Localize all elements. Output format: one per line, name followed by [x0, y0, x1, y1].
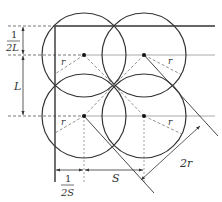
label-half-S-den: 2S: [60, 187, 74, 198]
label-r-bottom-left: r: [61, 117, 66, 127]
label-2r: 2r: [179, 157, 193, 170]
label-L: L: [13, 80, 21, 93]
circle-spacing-diagram: 1 2L L 1 2S S 2r r r r r: [0, 0, 222, 202]
label-r-top-left: r: [61, 57, 66, 67]
center-lines: [84, 55, 215, 116]
label-r-top-right: r: [168, 56, 173, 66]
label-half-L-num: 1: [11, 29, 17, 40]
label-r-bottom-right: r: [168, 117, 173, 127]
two-r-dimension: [141, 126, 200, 180]
label-half-S-num: 1: [65, 173, 71, 184]
label-half-L-den: 2L: [5, 42, 19, 53]
radius-lines: [55, 55, 182, 134]
label-S: S: [112, 172, 120, 185]
reference-dashed-lines: [8, 26, 84, 116]
diagonal-lines: [84, 55, 218, 193]
